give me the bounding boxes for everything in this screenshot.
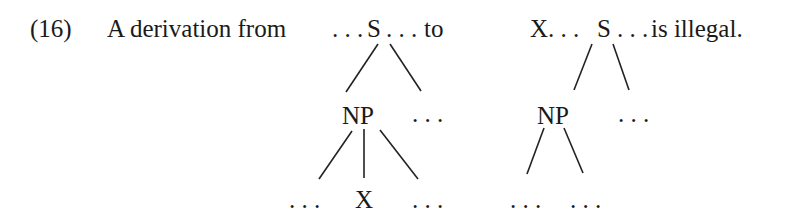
left-root-dots-right: . . . [386,15,417,42]
left-np-label: NP [342,102,374,129]
conclusion-text: is illegal. [651,15,743,42]
right-np-label: NP [537,102,569,129]
edge-s-to-np-left [346,44,378,92]
right-root-x: X [530,15,548,42]
right-np-sibling-dots: . . . [618,100,649,127]
right-root-dots-left: . . . [548,15,579,42]
right-root-s: S [597,15,611,42]
edge-np-to-right-child [380,130,418,179]
edge-np-to-left-child [319,131,352,179]
right-child-dots-1: . . . [510,186,541,213]
edge-s-to-dots-right [613,44,629,90]
edge-s-to-dots-left [390,44,421,91]
right-root-dots-right: . . . [617,15,648,42]
edge-s-to-np-right [574,44,592,90]
connector-text: to [424,15,443,42]
left-root-dots-left: . . . [332,15,363,42]
left-child-dots-1: . . . [289,186,320,213]
syntax-tree-diagram: (16) A derivation from . . . S . . . to … [0,0,789,218]
edge-np-to-left-child-right [527,128,544,174]
left-child-dots-3: . . . [412,186,443,213]
left-child-x: X [355,186,373,213]
left-np-sibling-dots: . . . [412,100,443,127]
edge-np-to-right-child-right [564,128,583,173]
example-number: (16) [30,15,72,43]
left-root-s: S [367,15,381,42]
intro-text: A derivation from [107,15,287,42]
right-child-dots-2: . . . [570,186,601,213]
